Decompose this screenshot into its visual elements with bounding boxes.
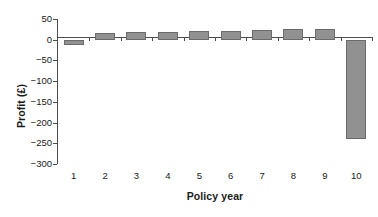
y-tick-label: −50 [18, 55, 52, 64]
x-axis-title: Policy year [58, 190, 372, 202]
y-tick-label: −150 [18, 97, 52, 106]
bar-slot [215, 19, 246, 164]
bar-slot [184, 19, 215, 164]
y-tick-mark [53, 60, 57, 61]
y-tick-mark [53, 164, 57, 165]
bar[interactable] [283, 29, 303, 40]
bar[interactable] [64, 40, 84, 45]
x-tick-label: 5 [184, 170, 215, 181]
y-tick-mark [53, 123, 57, 124]
plot-area [58, 19, 372, 164]
bar-slot [152, 19, 183, 164]
bar[interactable] [95, 33, 115, 40]
y-tick-label: −250 [18, 138, 52, 147]
bar-slot [341, 19, 372, 164]
y-tick-label: −200 [18, 118, 52, 127]
y-tick-label: −100 [18, 76, 52, 85]
bar[interactable] [221, 31, 241, 40]
bar-slot [309, 19, 340, 164]
x-tick-label: 2 [89, 170, 120, 181]
x-tick-label: 8 [278, 170, 309, 181]
bar[interactable] [189, 31, 209, 40]
bar-chart: Profit (£) 500−50−100−150−200−250−300 12… [0, 0, 378, 217]
y-tick-label: −300 [18, 159, 52, 168]
x-tick-label: 3 [121, 170, 152, 181]
x-axis-tick-labels: 12345678910 [58, 170, 372, 184]
bar[interactable] [346, 40, 366, 139]
x-tick-label: 7 [246, 170, 277, 181]
x-tick-label: 10 [341, 170, 372, 181]
bar-slot [121, 19, 152, 164]
bar-slot [58, 19, 89, 164]
y-tick-mark [53, 40, 57, 41]
bar-slot [89, 19, 120, 164]
y-tick-mark [53, 19, 57, 20]
bar[interactable] [315, 29, 335, 40]
bar-slot [246, 19, 277, 164]
y-tick-mark [53, 102, 57, 103]
x-tick-label: 6 [215, 170, 246, 181]
x-tick-label: 9 [309, 170, 340, 181]
y-tick-label: 0 [18, 35, 52, 44]
x-tick-label: 4 [152, 170, 183, 181]
y-tick-label: 50 [18, 14, 52, 23]
y-tick-mark [53, 81, 57, 82]
bar[interactable] [158, 32, 178, 40]
bar-slot [278, 19, 309, 164]
x-tick-label: 1 [58, 170, 89, 181]
x-tick-mark [372, 37, 373, 41]
y-tick-mark [53, 143, 57, 144]
y-axis-tick-labels: 500−50−100−150−200−250−300 [18, 0, 52, 217]
bar[interactable] [126, 32, 146, 39]
bar[interactable] [252, 30, 272, 40]
